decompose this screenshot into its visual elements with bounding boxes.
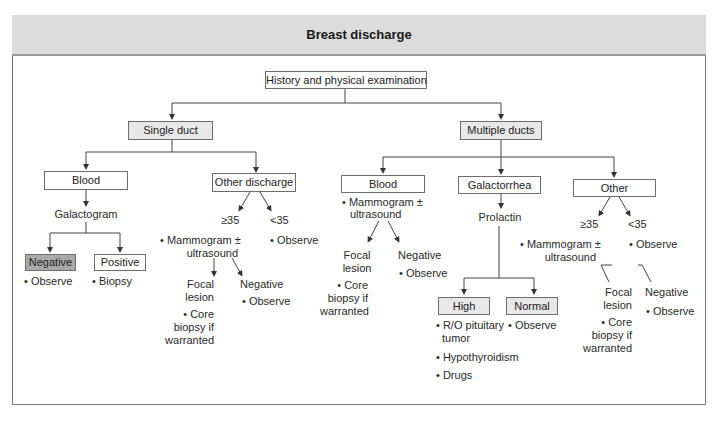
md-other-focal-2: lesion <box>600 298 632 312</box>
sd-ge35-action-2: ultrasound <box>160 246 238 260</box>
multiple-ducts-node: Multiple ducts <box>460 121 542 140</box>
sd-lt35-action: • Observe <box>270 233 318 247</box>
md-ge35-action-1: • Mammogram ± <box>520 237 598 251</box>
md-focal-action-3: warranted <box>320 304 368 318</box>
sd-focal-action-3: warranted <box>160 333 214 347</box>
md-normal-action: • Observe <box>508 318 556 332</box>
sd-positive-node: Positive <box>94 254 146 271</box>
md-other-negative: Negative <box>645 285 688 299</box>
md-negative: Negative <box>398 248 441 262</box>
sd-focal-action-1: • Core <box>160 307 214 321</box>
md-focal-1: Focal <box>340 248 374 262</box>
md-prolactin: Prolactin <box>472 210 528 224</box>
md-lt35-action: • Observe <box>629 237 677 251</box>
md-high-node: High <box>438 297 490 315</box>
sd-positive-action: • Biopsy <box>92 274 132 288</box>
sd-negative: Negative <box>240 277 283 291</box>
sd-ge35-action-1: • Mammogram ± <box>160 233 240 247</box>
md-negative-action: • Observe <box>399 266 447 280</box>
md-galactorrhea-node: Galactorrhea <box>458 176 541 194</box>
sd-other-node: Other discharge <box>212 173 296 192</box>
md-high-action-1: • R/O pituitary <box>436 318 504 332</box>
single-duct-node: Single duct <box>128 121 213 140</box>
md-other-node: Other <box>573 179 656 197</box>
md-normal-node: Normal <box>506 297 558 315</box>
md-blood-node: Blood <box>341 175 425 193</box>
md-focal-2: lesion <box>340 261 374 275</box>
md-high-action-3: • Hypothyroidism <box>436 350 519 364</box>
sd-focal-action-2: biopsy if <box>160 320 214 334</box>
md-high-action-2: tumor <box>442 331 470 345</box>
sd-blood-node: Blood <box>44 171 128 190</box>
md-lt35: <35 <box>628 217 647 231</box>
md-other-negative-action: • Observe <box>646 304 694 318</box>
sd-focal-1: Focal <box>180 277 214 291</box>
md-other-focal-1: Focal <box>600 285 632 299</box>
md-other-focal-action-3: warranted <box>580 341 632 355</box>
md-blood-action-2: ultrasound <box>350 207 401 221</box>
sd-focal-2: lesion <box>180 290 214 304</box>
md-other-focal-action-1: • Core <box>580 315 632 329</box>
md-other-focal-action-2: biopsy if <box>580 328 632 342</box>
diagram-title: Breast discharge <box>12 15 706 56</box>
sd-galactogram: Galactogram <box>50 207 122 221</box>
sd-negative-action-2: • Observe <box>242 294 290 308</box>
md-focal-action-1: • Core <box>320 278 368 292</box>
md-focal-action-2: biopsy if <box>320 291 368 305</box>
root-node: History and physical examination <box>265 71 427 89</box>
md-ge35: ≥35 <box>580 217 598 231</box>
sd-lt35: <35 <box>270 213 289 227</box>
sd-ge35: ≥35 <box>221 213 239 227</box>
sd-negative-action: • Observe <box>24 274 72 288</box>
sd-negative-node: Negative <box>25 254 76 271</box>
md-high-action-4: • Drugs <box>436 368 472 382</box>
md-ge35-action-2: ultrasound <box>520 250 596 264</box>
